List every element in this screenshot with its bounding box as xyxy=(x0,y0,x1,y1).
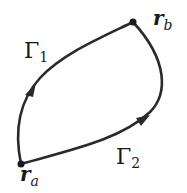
gamma-2-sub: 2 xyxy=(131,155,140,171)
ra-base: r xyxy=(20,162,31,186)
point-rb xyxy=(130,19,137,26)
label-gamma-2: Γ2 xyxy=(116,146,140,170)
arrow-gamma-2-icon xyxy=(136,115,150,126)
label-gamma-1: Γ1 xyxy=(24,40,48,64)
rb-sub: b xyxy=(164,17,173,33)
label-ra: ra xyxy=(20,164,39,188)
gamma-2-base: Γ xyxy=(116,144,131,169)
ra-sub: a xyxy=(31,173,39,189)
label-rb: rb xyxy=(153,8,173,32)
arrow-gamma-1-icon xyxy=(25,83,36,97)
gamma-1-sub: 1 xyxy=(39,49,48,65)
gamma-1-base: Γ xyxy=(24,38,39,63)
rb-base: r xyxy=(153,6,164,30)
